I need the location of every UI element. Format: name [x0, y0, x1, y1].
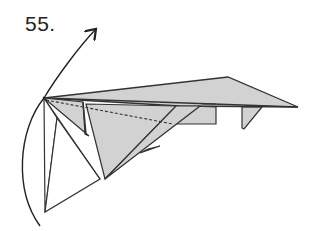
- right-hanging-tab: [242, 107, 262, 129]
- origami-diagram: [0, 0, 316, 231]
